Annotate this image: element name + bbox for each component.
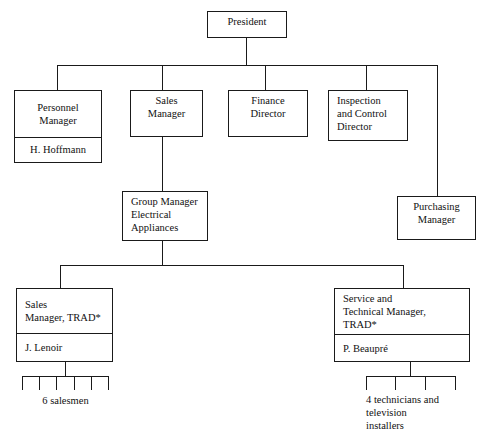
node-group-manager[interactable]: Group Manager Electrical Appliances xyxy=(122,191,208,241)
connector-servtrad-stem xyxy=(410,362,411,376)
connector-sales-to-group xyxy=(162,137,163,191)
connector-technicians-bus xyxy=(366,376,455,377)
connector-salesman-tick xyxy=(56,376,57,390)
node-sales-manager-trad[interactable]: Sales Manager, TRAD* J. Lenoir xyxy=(16,288,113,362)
connector-salesman-tick xyxy=(22,376,23,390)
connector-technician-tick xyxy=(366,376,367,390)
connector-salesman-tick xyxy=(74,376,75,390)
connector-technician-tick xyxy=(425,376,426,390)
connector-group-stem xyxy=(162,241,163,265)
org-chart: President Personnel Manager H. Hoffmann … xyxy=(0,0,487,442)
node-purchasing-manager-title: Purchasing Manager xyxy=(398,197,475,229)
connector-salesman-tick xyxy=(39,376,40,390)
connector-drop-finance xyxy=(265,65,266,90)
connector-top-bus xyxy=(57,65,438,66)
connector-drop-sales xyxy=(162,65,163,90)
node-sales-manager[interactable]: Sales Manager xyxy=(130,90,203,137)
node-finance-director[interactable]: Finance Director xyxy=(228,90,308,137)
leaf-label-technicians: 4 technicians and television installers xyxy=(366,393,484,432)
node-personnel-manager[interactable]: Personnel Manager H. Hoffmann xyxy=(14,90,102,163)
node-sales-manager-title: Sales Manager xyxy=(131,91,202,123)
connector-drop-inspection xyxy=(366,65,367,90)
connector-drop-salestrad xyxy=(60,265,61,288)
node-inspection-control-director-title: Inspection and Control Director xyxy=(329,91,407,136)
connector-president-stem xyxy=(246,37,247,65)
connector-lower-bus xyxy=(60,265,404,266)
node-service-technical-manager-trad-person: P. Beaupré xyxy=(335,334,469,361)
node-sales-manager-trad-person: J. Lenoir xyxy=(17,333,112,361)
node-sales-manager-trad-title: Sales Manager, TRAD* xyxy=(17,289,112,333)
connector-salesman-tick xyxy=(91,376,92,390)
node-personnel-manager-person: H. Hoffmann xyxy=(15,137,101,162)
node-inspection-control-director[interactable]: Inspection and Control Director xyxy=(328,90,408,141)
connector-drop-servtrad xyxy=(403,265,404,288)
connector-salesmen-bus xyxy=(22,376,109,377)
connector-technician-tick xyxy=(455,376,456,390)
node-service-technical-manager-trad-title: Service and Technical Manager, TRAD* xyxy=(335,289,469,334)
connector-drop-personnel xyxy=(57,65,58,90)
connector-salesman-tick xyxy=(108,376,109,390)
connector-drop-purchasing xyxy=(437,65,438,196)
connector-technician-tick xyxy=(395,376,396,390)
connector-salestrad-stem xyxy=(65,362,66,376)
node-president[interactable]: President xyxy=(207,11,287,38)
node-personnel-manager-title: Personnel Manager xyxy=(15,91,101,137)
node-service-technical-manager-trad[interactable]: Service and Technical Manager, TRAD* P. … xyxy=(334,288,470,362)
node-group-manager-title: Group Manager Electrical Appliances xyxy=(123,192,207,237)
leaf-label-salesmen: 6 salesmen xyxy=(14,394,117,407)
node-finance-director-title: Finance Director xyxy=(229,91,307,123)
node-purchasing-manager[interactable]: Purchasing Manager xyxy=(397,196,476,240)
node-president-title: President xyxy=(208,12,286,31)
